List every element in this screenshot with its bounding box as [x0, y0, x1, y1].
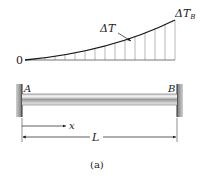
end-temperature-label: ΔTB — [174, 7, 195, 21]
support-b-label: B — [167, 83, 175, 94]
beam-rod — [22, 94, 177, 105]
temperature-plot: 0 ΔT ΔTB — [16, 7, 195, 67]
length-label: L — [91, 131, 99, 144]
x-position-label: x — [69, 120, 75, 131]
dimensions: x L — [22, 118, 177, 144]
thermal-beam-diagram: 0 ΔT ΔTB A B x L (a) — [0, 0, 209, 181]
left-wall — [16, 84, 22, 117]
curve-label: ΔT — [99, 22, 117, 35]
origin-label: 0 — [16, 54, 23, 67]
fixed-beam: A B — [16, 83, 183, 117]
right-wall — [177, 84, 183, 117]
figure-caption: (a) — [90, 159, 104, 170]
support-a-label: A — [23, 83, 31, 94]
